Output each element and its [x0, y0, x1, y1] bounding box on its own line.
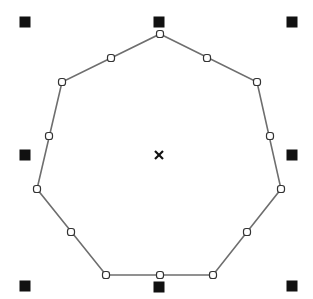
midpoint-node[interactable]: [46, 133, 53, 140]
handle-top-right[interactable]: [287, 17, 298, 28]
vertex-node[interactable]: [278, 186, 285, 193]
handle-bottom-right[interactable]: [287, 281, 298, 292]
midpoint-node[interactable]: [157, 272, 164, 279]
vertex-node[interactable]: [254, 79, 261, 86]
center-marker: [155, 151, 163, 159]
handle-top-center[interactable]: [154, 17, 165, 28]
vertex-node[interactable]: [103, 272, 110, 279]
drawing-canvas[interactable]: [0, 0, 313, 299]
vertex-node[interactable]: [157, 31, 164, 38]
midpoint-node[interactable]: [244, 229, 251, 236]
vertex-node[interactable]: [59, 79, 66, 86]
vertex-node[interactable]: [34, 186, 41, 193]
handle-bottom-center[interactable]: [154, 282, 165, 293]
midpoint-node[interactable]: [204, 55, 211, 62]
center-x-icon[interactable]: [155, 151, 163, 159]
handle-top-left[interactable]: [20, 17, 31, 28]
midpoint-node[interactable]: [68, 229, 75, 236]
midpoint-node[interactable]: [108, 55, 115, 62]
handle-middle-left[interactable]: [20, 150, 31, 161]
vertex-node[interactable]: [210, 272, 217, 279]
midpoint-node[interactable]: [267, 133, 274, 140]
handle-middle-right[interactable]: [287, 150, 298, 161]
handle-bottom-left[interactable]: [20, 281, 31, 292]
